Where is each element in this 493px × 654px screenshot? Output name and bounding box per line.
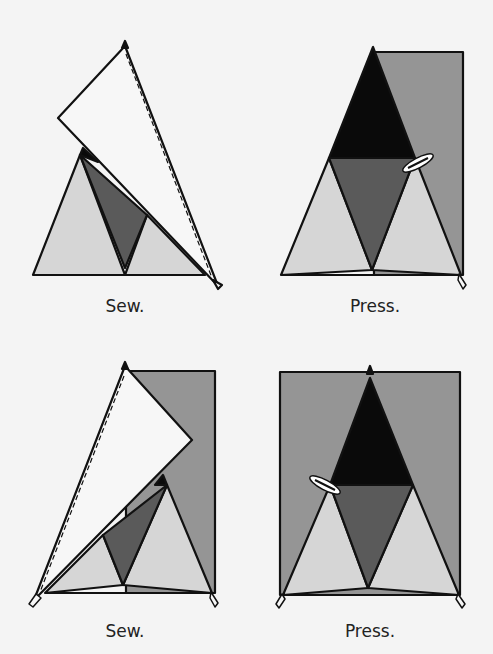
panel-sew-1 (33, 41, 222, 289)
caption-sew-2: Sew. (65, 621, 185, 641)
quilting-diagram (0, 0, 493, 654)
arrow-tip-bottom-left (29, 594, 41, 607)
arrow-tip-bottom (458, 274, 466, 289)
panel-sew-2 (29, 362, 218, 607)
arrow-tip-top (367, 366, 373, 374)
arrow-tip-bottom-left (276, 594, 285, 608)
caption-press-2: Press. (310, 621, 430, 641)
arrow-tip-top (122, 41, 128, 48)
arrow-tip-bottom-right (456, 594, 465, 608)
caption-sew-1: Sew. (65, 296, 185, 316)
caption-press-1: Press. (315, 296, 435, 316)
panel-press-2 (276, 366, 465, 608)
arrow-tip-top (122, 362, 128, 369)
arrow-tip-bottom (213, 280, 222, 289)
panel-press-1 (281, 47, 466, 289)
arrow-tip-bottom-right (210, 592, 218, 607)
